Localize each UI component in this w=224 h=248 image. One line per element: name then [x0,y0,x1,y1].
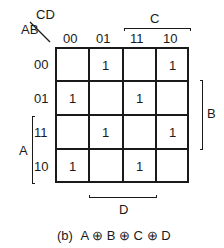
c-bracket-tick-right [190,28,191,31]
cell-r0-c3: 1 [156,48,189,82]
a-label: A [19,144,28,157]
d-bracket-tick-right [156,195,157,198]
cell-r2-c0 [56,115,89,149]
cell-r1-c3 [156,81,189,115]
cell-r1-c2: 1 [123,81,156,115]
caption-expression: A ⊕ B ⊕ C ⊕ D [81,228,171,243]
a-bracket-tick-bottom [32,183,35,184]
b-label: B [207,107,216,120]
caption-prefix: (b) [57,228,73,243]
col-header-01: 01 [96,32,110,45]
cell-r3-c1 [89,149,122,183]
c-label: C [150,12,159,25]
row-header-11: 11 [34,126,48,139]
b-bracket-tick-bottom [200,149,203,150]
cell-r2-c3: 1 [156,115,189,149]
col-header-00: 00 [63,32,77,45]
figure-caption: (b) A ⊕ B ⊕ C ⊕ D [57,228,171,243]
cell-r2-c2 [123,115,156,149]
cell-r3-c2: 1 [123,149,156,183]
cell-r1-c0: 1 [56,81,89,115]
cell-r2-c1: 1 [89,115,122,149]
corner-diagonal [28,20,52,44]
cell-r0-c2 [123,48,156,82]
cell-r0-c0 [56,48,89,82]
cell-r3-c3 [156,149,189,183]
a-bracket [32,116,33,184]
a-bracket-tick-top [32,116,35,117]
b-bracket [202,80,203,150]
col-header-10: 10 [163,32,177,45]
cell-r0-c1: 1 [89,48,122,82]
d-label: D [119,203,128,216]
cell-r1-c1 [89,81,122,115]
cell-r3-c0: 1 [56,149,89,183]
col-header-11: 11 [130,32,144,45]
row-header-00: 00 [34,58,48,71]
d-bracket [89,197,157,198]
c-bracket-tick-left [124,28,125,31]
row-header-10: 10 [34,160,48,173]
row-header-01: 01 [34,92,48,105]
d-bracket-tick-left [89,195,90,198]
b-bracket-tick-top [200,80,203,81]
c-bracket [124,28,191,29]
